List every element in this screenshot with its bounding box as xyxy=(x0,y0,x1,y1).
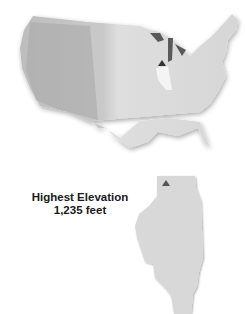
illinois-outline xyxy=(135,176,203,314)
illinois-relief-map xyxy=(125,168,225,314)
mountain-relief xyxy=(26,22,98,120)
us-relief-map xyxy=(0,0,245,160)
elevation-title: Highest Elevation xyxy=(30,191,130,204)
elevation-value: 1,235 feet xyxy=(30,204,130,217)
elevation-label: Highest Elevation 1,235 feet xyxy=(30,191,130,217)
